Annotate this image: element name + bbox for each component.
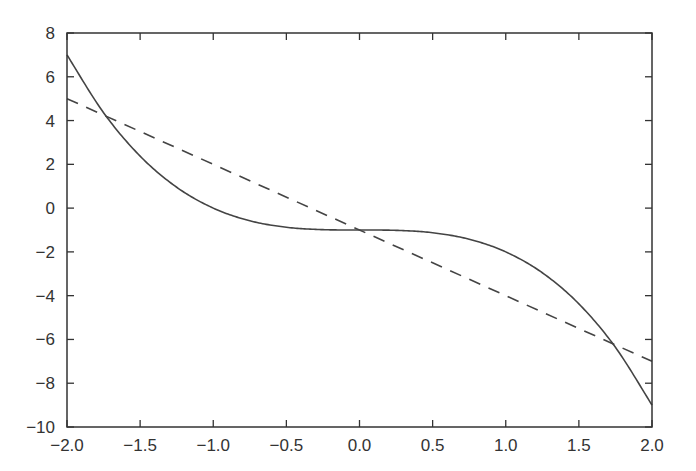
y-tick-label: 4 [46, 112, 55, 131]
x-tick-label: 1.5 [567, 436, 591, 455]
x-tick-label: 1.0 [494, 436, 518, 455]
y-tick-label: −2 [36, 243, 55, 262]
x-tick-label: −0.5 [270, 436, 304, 455]
x-tick-label: 0.5 [421, 436, 445, 455]
x-tick-label: 2.0 [640, 436, 664, 455]
y-tick-label: 0 [46, 199, 55, 218]
y-tick-label: −6 [36, 330, 55, 349]
x-tick-label: 0.0 [348, 436, 372, 455]
y-tick-label: −8 [36, 374, 55, 393]
series-layer [67, 55, 652, 405]
series-line [67, 99, 652, 362]
y-tick-label: 6 [46, 68, 55, 87]
y-tick-label: 2 [46, 155, 55, 174]
y-tick-label: 8 [46, 24, 55, 43]
x-tick-label: −1.5 [123, 436, 157, 455]
y-axis-tick-labels: 86420−2−4−6−8−10 [26, 24, 55, 437]
x-tick-label: −1.0 [196, 436, 230, 455]
x-tick-label: −2.0 [50, 436, 84, 455]
y-tick-label: −10 [26, 418, 55, 437]
y-tick-label: −4 [36, 287, 55, 306]
x-axis-tick-labels: −2.0−1.5−1.0−0.50.00.51.01.52.0 [50, 436, 664, 455]
chart: −2.0−1.5−1.0−0.50.00.51.01.52.0 86420−2−… [0, 0, 696, 471]
